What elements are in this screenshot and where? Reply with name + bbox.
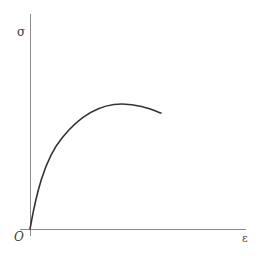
origin-label: O [14, 231, 24, 243]
diagram-svg [0, 0, 262, 256]
y-axis-label: σ [17, 26, 25, 38]
x-axis-label: ε [242, 233, 248, 244]
stress-strain-diagram: σ O ε [0, 0, 262, 256]
stress-strain-curve [30, 104, 161, 229]
